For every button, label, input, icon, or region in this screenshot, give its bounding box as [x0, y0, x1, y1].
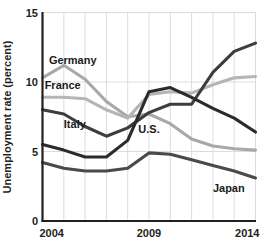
y-tick-label: 5	[32, 146, 38, 158]
y-tick-label: 10	[26, 76, 38, 88]
series-label-germany: Germany	[49, 54, 98, 66]
series-label-japan: Japan	[213, 182, 245, 194]
y-tick-label: 0	[32, 215, 38, 227]
series-label-france: France	[45, 79, 81, 91]
series-label-italy: Italy	[64, 118, 87, 130]
y-axis-title: Unemployment rate (percent)	[1, 40, 13, 193]
chart-background	[0, 0, 263, 242]
chart-svg: 051015 200420092014 GermanyFranceItalyU.…	[0, 0, 263, 242]
y-tick-label: 15	[26, 7, 38, 19]
series-label-us: U.S.	[138, 123, 159, 135]
x-tick-label: 2014	[235, 227, 260, 239]
unemployment-rate-line-chart: 051015 200420092014 GermanyFranceItalyU.…	[0, 0, 263, 242]
x-tick-label: 2004	[40, 227, 65, 239]
x-tick-label: 2009	[137, 227, 161, 239]
